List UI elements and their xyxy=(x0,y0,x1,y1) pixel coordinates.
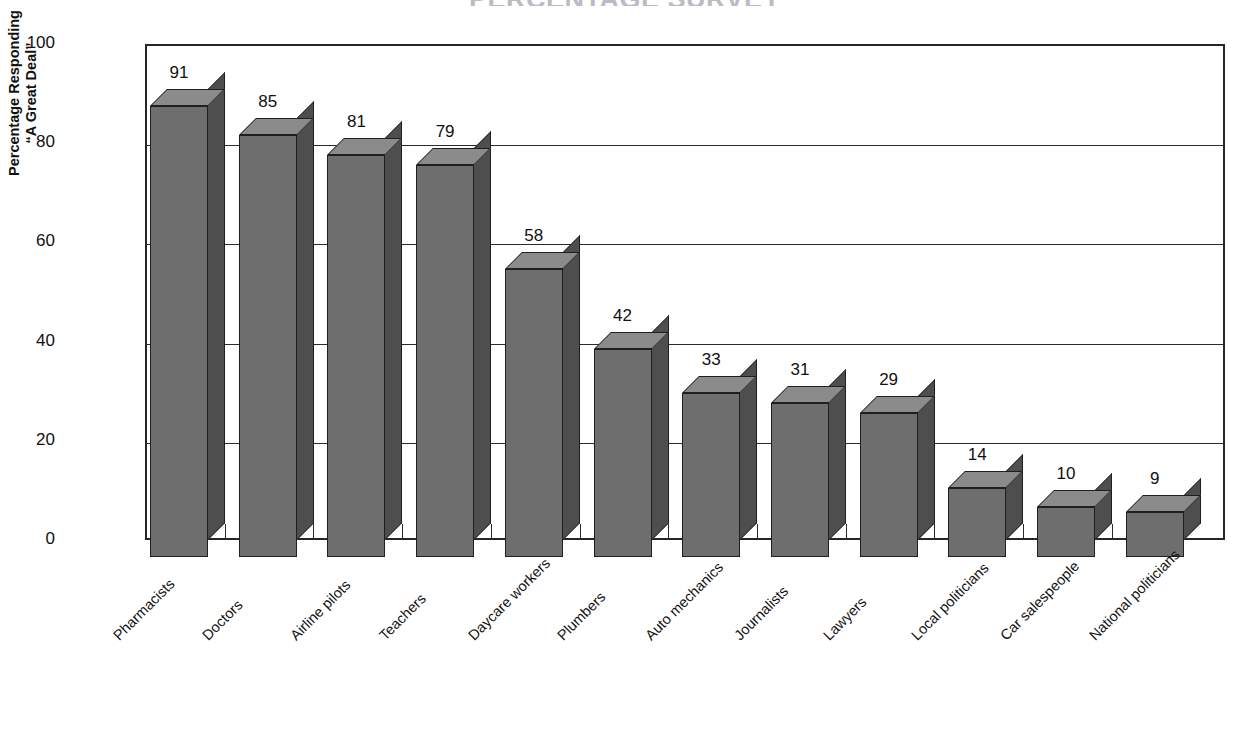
x-label-6: Auto mechanics xyxy=(642,559,726,643)
bar-side-face xyxy=(474,131,491,540)
bar-side-face xyxy=(297,101,314,540)
bar-6[interactable]: 33 xyxy=(682,393,740,557)
bar-front-face xyxy=(1037,507,1095,557)
x-label-0: Pharmacists xyxy=(110,576,178,644)
bar-2[interactable]: 81 xyxy=(327,155,385,557)
bar-value-label: 29 xyxy=(852,370,926,390)
bar-value-label: 91 xyxy=(142,63,216,83)
bar-value-label: 85 xyxy=(231,92,305,112)
bar-front-face xyxy=(239,135,297,557)
x-label-10: Car salespeople xyxy=(997,558,1082,643)
x-label-1: Doctors xyxy=(199,597,246,644)
bar-5[interactable]: 42 xyxy=(594,349,652,557)
x-axis-tick-7 xyxy=(757,524,758,540)
bar-1[interactable]: 85 xyxy=(239,135,297,557)
x-axis-tick-8 xyxy=(846,524,847,540)
y-tick-label-40: 40 xyxy=(0,331,55,351)
bar-7[interactable]: 31 xyxy=(771,403,829,557)
x-axis-tick-1 xyxy=(225,524,226,540)
bar-value-label: 10 xyxy=(1029,464,1103,484)
y-axis-title-line2: “A Great Deal” xyxy=(23,0,40,208)
x-label-3: Teachers xyxy=(376,590,429,643)
bar-side-face xyxy=(385,121,402,540)
bar-value-label: 81 xyxy=(319,112,393,132)
x-axis-tick-4 xyxy=(491,524,492,540)
bar-value-label: 42 xyxy=(586,306,660,326)
x-label-9: Local politicians xyxy=(908,560,992,644)
y-tick-label-100: 100 xyxy=(0,33,55,53)
bar-front-face xyxy=(771,403,829,557)
bar-front-face xyxy=(860,413,918,557)
bar-0[interactable]: 91 xyxy=(150,106,208,557)
bar-8[interactable]: 29 xyxy=(860,413,918,557)
bar-value-label: 31 xyxy=(763,360,837,380)
bar-front-face xyxy=(948,488,1006,557)
y-tick-label-20: 20 xyxy=(0,430,55,450)
bar-front-face xyxy=(682,393,740,557)
bar-value-label: 9 xyxy=(1118,469,1192,489)
bar-9[interactable]: 14 xyxy=(948,488,1006,557)
x-axis-tick-3 xyxy=(402,524,403,540)
bar-front-face xyxy=(327,155,385,557)
x-axis-tick-11 xyxy=(1112,524,1113,540)
bar-front-face xyxy=(594,349,652,557)
bar-value-label: 14 xyxy=(940,445,1014,465)
x-axis-tick-5 xyxy=(580,524,581,540)
x-axis-tick-6 xyxy=(668,524,669,540)
y-axis-title: Percentage Responding “A Great Deal” xyxy=(6,0,54,208)
y-tick-label-0: 0 xyxy=(0,529,55,549)
x-label-8: Lawyers xyxy=(820,594,869,643)
bar-4[interactable]: 58 xyxy=(505,269,563,557)
y-tick-label-60: 60 xyxy=(0,231,55,251)
x-label-4: Daycare workers xyxy=(465,555,553,643)
bar-3[interactable]: 79 xyxy=(416,165,474,557)
x-label-2: Airline pilots xyxy=(287,577,354,644)
x-axis-tick-10 xyxy=(1023,524,1024,540)
x-label-5: Plumbers xyxy=(554,589,609,644)
x-label-11: National politicians xyxy=(1086,547,1183,644)
bar-front-face xyxy=(150,106,208,557)
bar-10[interactable]: 10 xyxy=(1037,507,1095,557)
chart-title: PERCENTAGE SURVEY xyxy=(0,0,1250,6)
bar-value-label: 33 xyxy=(674,350,748,370)
x-axis-tick-9 xyxy=(934,524,935,540)
bar-side-face xyxy=(652,315,669,540)
bar-front-face xyxy=(416,165,474,557)
x-axis-tick-2 xyxy=(313,524,314,540)
y-tick-label-80: 80 xyxy=(0,132,55,152)
y-axis-title-line1: Percentage Responding xyxy=(6,0,23,208)
bar-value-label: 79 xyxy=(408,122,482,142)
bar-side-face xyxy=(208,72,225,540)
bar-front-face xyxy=(505,269,563,557)
bar-value-label: 58 xyxy=(497,226,571,246)
x-label-7: Journalists xyxy=(731,583,791,643)
bar-side-face xyxy=(563,235,580,540)
